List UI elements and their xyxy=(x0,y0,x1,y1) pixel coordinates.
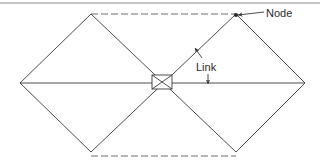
node-marker-dot xyxy=(234,13,238,17)
link-right-to-topright xyxy=(236,14,305,83)
topology-diagram-canvas: Node Link xyxy=(0,0,320,166)
node-label: Node xyxy=(266,7,292,19)
link-label: Link xyxy=(196,61,217,73)
node-leader-line xyxy=(238,12,264,15)
link-right-to-bottomright xyxy=(236,83,305,152)
link-left-to-bottomleft xyxy=(20,83,91,152)
figure-container: Node Link xyxy=(0,0,320,166)
link-left-to-topleft xyxy=(20,14,91,83)
